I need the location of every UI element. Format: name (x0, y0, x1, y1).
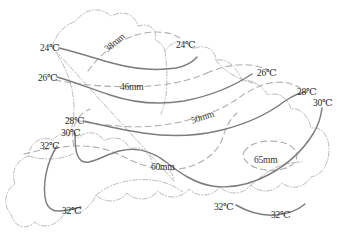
isotherm-label-32c-lower-mid: 32℃ (214, 203, 234, 213)
isohyet-group (24, 32, 300, 170)
isotherm-26c-line (57, 74, 252, 103)
isotherm-label-30c-right: 30℃ (313, 99, 333, 109)
isotherm-label-30c-left: 30℃ (61, 129, 81, 139)
isotherm-label-32c-upper-left: 32℃ (40, 142, 60, 152)
isotherm-24c-line (59, 48, 197, 69)
isohyet-label-46mm: 46mm (120, 83, 143, 93)
isohyet-50mm-line (66, 82, 300, 127)
contour-map-canvas (0, 0, 346, 244)
isotherm-label-26c-right: 26℃ (257, 69, 277, 79)
isohyet-label-60mm: 60mm (151, 163, 174, 173)
contour-map-figure: 24℃ 24℃ 26℃ 26℃ 28℃ 28℃ 30℃ 30℃ 32℃ 32℃ … (0, 0, 346, 244)
isotherm-label-24c-left: 24℃ (40, 44, 60, 54)
isotherm-label-28c-right: 28℃ (297, 88, 317, 98)
isotherm-group (45, 48, 323, 215)
isotherm-label-28c-left: 28℃ (65, 117, 85, 127)
isotherm-label-32c-lower-right: 32℃ (271, 211, 291, 221)
boundary-inner-detail-lower (96, 180, 183, 195)
isotherm-label-26c-left: 26℃ (38, 74, 58, 84)
isotherm-label-24c-right: 24℃ (176, 41, 196, 51)
boundary-inner-detail-right (216, 60, 257, 84)
isotherm-32c-line-left (45, 146, 82, 211)
boundary-inner-detail-mid (161, 51, 167, 114)
isotherm-label-32c-lower-left: 32℃ (62, 207, 82, 217)
isohyet-label-65mm: 65mm (254, 156, 277, 166)
